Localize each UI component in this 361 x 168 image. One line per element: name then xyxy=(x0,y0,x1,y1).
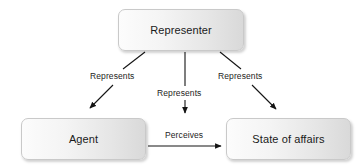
edge-label-represents-perception: Represents xyxy=(156,88,202,98)
diagram-canvas: Representer Agent State of affairs Repre… xyxy=(0,0,361,168)
node-state-of-affairs-label: State of affairs xyxy=(252,133,324,145)
node-agent-label: Agent xyxy=(69,133,98,145)
node-representer-label: Representer xyxy=(150,24,212,36)
edge-label-represents-state: Represents xyxy=(217,71,263,81)
edge-label-represents-agent: Represents xyxy=(89,71,135,81)
node-state-of-affairs[interactable]: State of affairs xyxy=(226,118,351,160)
node-agent[interactable]: Agent xyxy=(21,118,146,160)
node-representer[interactable]: Representer xyxy=(118,9,244,51)
edge-label-perceives: Perceives xyxy=(164,130,204,140)
